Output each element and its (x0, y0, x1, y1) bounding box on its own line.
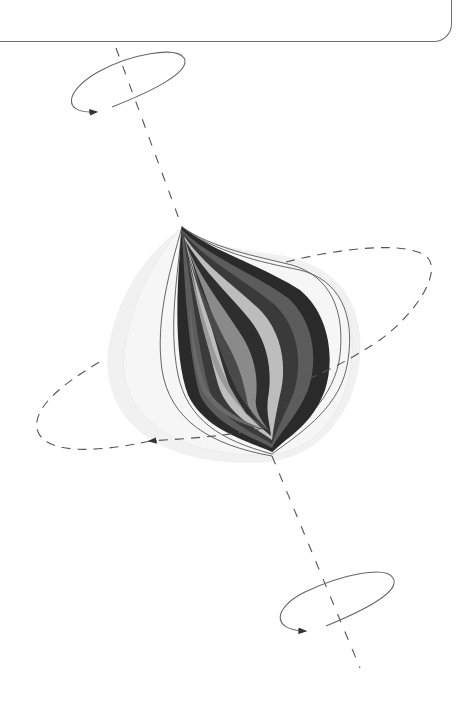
bottom-rotation-arrow (280, 572, 394, 631)
rotation-diagram (0, 0, 461, 703)
top-rotation-arrow (71, 52, 185, 112)
